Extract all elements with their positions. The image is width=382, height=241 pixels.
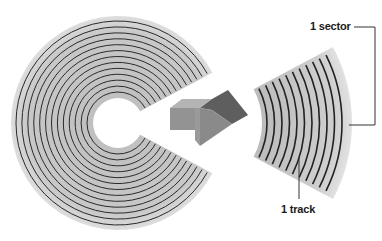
sector-bracket-line [349, 27, 375, 125]
track-label: 1 track [281, 203, 315, 215]
disk-sector-diagram [0, 0, 382, 241]
single-sector [254, 47, 352, 199]
sector-surface [254, 47, 352, 199]
sector-label: 1 sector [310, 20, 351, 32]
arrow-right-icon [170, 90, 248, 146]
